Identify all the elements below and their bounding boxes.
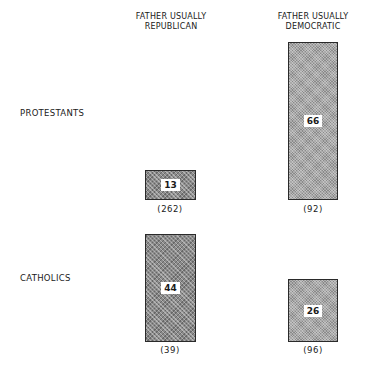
bar-value: 26	[304, 305, 323, 317]
row-label-catholics: CATHOLICS	[20, 273, 71, 283]
column-header-line: DEMOCRATIC	[258, 22, 366, 32]
bar-value: 44	[161, 282, 180, 294]
bar-value: 66	[304, 115, 323, 127]
column-header-line: FATHER USUALLY	[258, 12, 366, 22]
bar-protestants-republican: 13	[145, 170, 196, 200]
column-header-line: REPUBLICAN	[116, 22, 226, 32]
bar-catholics-democratic: 26	[288, 279, 338, 342]
column-header-republican: FATHER USUALLY REPUBLICAN	[116, 12, 226, 32]
sample-size-label: (96)	[283, 345, 343, 355]
sample-size-label: (39)	[140, 345, 200, 355]
row-label-protestants: PROTESTANTS	[20, 108, 84, 118]
bar-protestants-democratic: 66	[288, 42, 338, 200]
bar-catholics-republican: 44	[145, 234, 196, 342]
bar-value: 13	[161, 179, 180, 191]
column-header-democratic: FATHER USUALLY DEMOCRATIC	[258, 12, 366, 32]
sample-size-label: (92)	[283, 204, 343, 214]
sample-size-label: (262)	[140, 204, 200, 214]
column-header-line: FATHER USUALLY	[116, 12, 226, 22]
